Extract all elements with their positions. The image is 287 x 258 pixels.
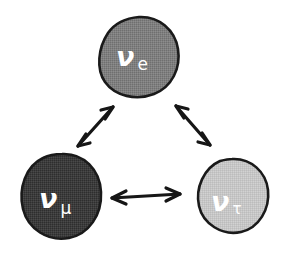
node-nu-tau[interactable]: [198, 159, 268, 233]
node-nu-e-circle: [99, 17, 178, 97]
node-nu-mu-circle: [22, 154, 102, 239]
diagram-canvas: [0, 0, 287, 258]
arrow-nu-mu-nu-tau: [112, 188, 180, 204]
node-nu-tau-circle: [198, 159, 268, 233]
node-nu-e[interactable]: [99, 17, 178, 97]
arrow-nu-mu-nu-e: [78, 107, 113, 146]
neutrino-oscillation-diagram: νe νμ ντ: [0, 0, 287, 258]
arrow-nu-e-nu-tau: [176, 106, 210, 145]
node-nu-mu[interactable]: [22, 154, 102, 239]
